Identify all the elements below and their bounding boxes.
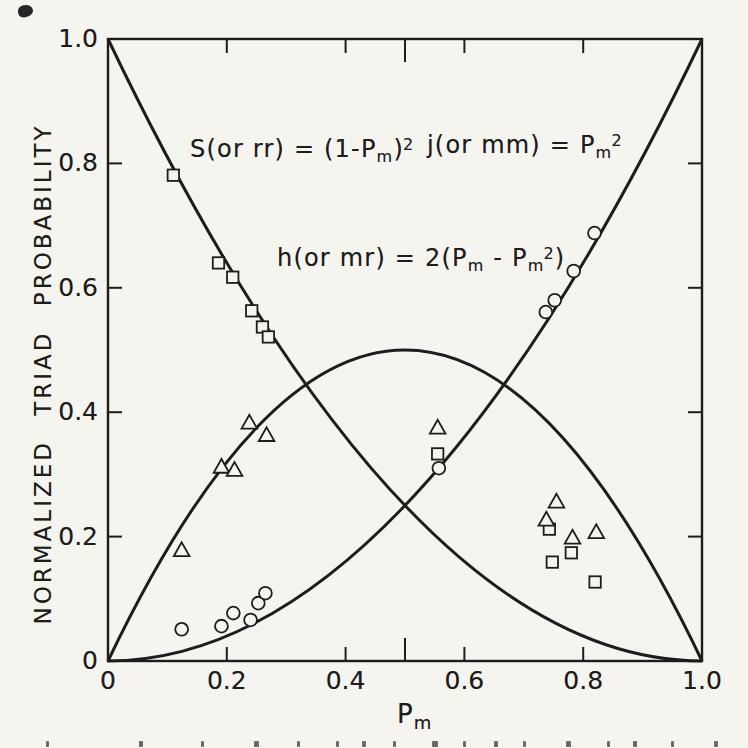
equation-subscript: m xyxy=(528,256,545,275)
equation-text: S(or rr) = (1-P xyxy=(190,135,377,163)
equation-superscript: 2 xyxy=(403,135,414,154)
marker-circle xyxy=(244,614,257,627)
plot-area xyxy=(0,0,748,748)
equation-superscript: 2 xyxy=(543,244,554,263)
marker-square xyxy=(227,272,238,283)
marker-triangle xyxy=(174,542,190,556)
y-tick-label: 0.4 xyxy=(30,397,98,427)
marker-circle xyxy=(215,620,228,633)
marker-square xyxy=(213,257,224,268)
marker-circle xyxy=(432,462,445,475)
marker-circle xyxy=(588,227,601,240)
marker-circle xyxy=(175,623,188,636)
y-tick-label: 0.8 xyxy=(30,148,98,178)
marker-square xyxy=(168,170,179,181)
marker-circle xyxy=(227,607,240,620)
x-axis-title: Pm xyxy=(397,699,432,733)
marker-triangle xyxy=(588,524,604,538)
marker-square xyxy=(566,547,577,558)
equation-subscript: m xyxy=(377,147,394,166)
y-tick-label: 0 xyxy=(30,646,98,676)
marker-triangle xyxy=(430,420,446,434)
marker-square xyxy=(547,556,558,567)
y-tick-label: 0.6 xyxy=(30,273,98,303)
marker-triangle xyxy=(227,462,243,476)
equation-superscript: 2 xyxy=(611,131,622,150)
marker-triangle xyxy=(242,415,258,429)
equation-text: ) xyxy=(555,244,566,272)
x-tick-label: 1.0 xyxy=(672,666,732,695)
marker-circle xyxy=(259,587,272,600)
marker-triangle xyxy=(539,512,555,526)
equation-subscript: m xyxy=(596,143,613,162)
equation-s-rr: S(or rr) = (1-Pm)2 xyxy=(190,135,414,166)
equation-j-mm: j(or mm) = Pm2 xyxy=(427,131,623,162)
marker-circle xyxy=(539,306,552,319)
equation-subscript: m xyxy=(468,256,485,275)
marker-square xyxy=(246,305,257,316)
equation-text: j(or mm) = P xyxy=(427,131,596,159)
marker-circle xyxy=(548,294,561,307)
y-tick-label: 1.0 xyxy=(30,24,98,54)
marker-square xyxy=(263,331,274,342)
x-tick-label: 0.2 xyxy=(197,666,257,695)
y-tick-label: 0.2 xyxy=(30,522,98,552)
equation-text: - P xyxy=(484,244,527,272)
marker-triangle xyxy=(565,530,581,544)
marker-square xyxy=(432,448,443,459)
x-title-subscript: m xyxy=(414,712,433,733)
x-title-base: P xyxy=(397,699,414,729)
marker-square xyxy=(589,576,600,587)
figure-canvas: NORMALIZED TRIAD PROBABILITY 00.20.40.60… xyxy=(0,0,748,748)
marker-triangle xyxy=(549,494,565,508)
x-tick-label: 0.6 xyxy=(434,666,494,695)
marker-triangle xyxy=(259,427,275,441)
marker-circle xyxy=(567,265,580,278)
equation-h-mr: h(or mr) = 2(Pm - Pm2) xyxy=(277,244,565,275)
equation-text: h(or mr) = 2(P xyxy=(277,244,468,272)
x-tick-label: 0.4 xyxy=(316,666,376,695)
x-tick-label: 0.8 xyxy=(553,666,613,695)
